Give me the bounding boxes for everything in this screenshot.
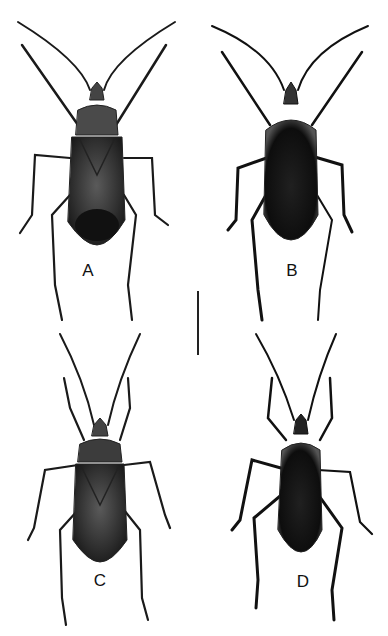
specimens-illustration <box>0 0 388 636</box>
scale-bar <box>197 291 199 355</box>
panel-label-c: C <box>94 572 106 589</box>
panel-label-d: D <box>297 573 309 590</box>
specimen-a <box>18 22 175 320</box>
panel-label-b: B <box>286 262 297 279</box>
figure: A B C D <box>0 0 388 636</box>
panel-label-a: A <box>82 262 93 279</box>
